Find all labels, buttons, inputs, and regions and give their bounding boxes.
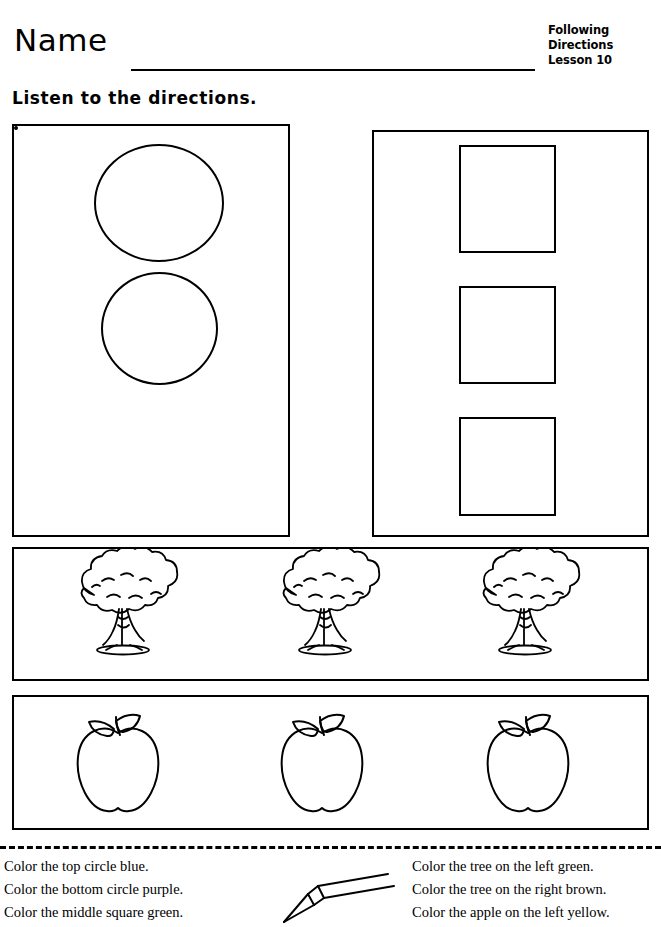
instruction-item: Color the tree on the right brown. [412,878,610,901]
apples-box [12,695,649,830]
instruction-item: Color the middle square green. [4,901,183,924]
square-top[interactable] [459,145,556,253]
apple-right [488,715,569,811]
cut-line [0,846,661,849]
tree-right [484,549,580,655]
circle-middle[interactable] [101,272,218,385]
name-write-line[interactable] [131,69,535,71]
trees-box [12,547,649,681]
worksheet-header: Name Following Directions Lesson 10 [0,0,661,86]
instruction-item: Color the tree on the left green. [412,855,610,878]
name-label: Name [14,22,107,58]
lesson-title-block: Following Directions Lesson 10 [548,23,658,68]
circles-box [12,124,290,537]
square-middle[interactable] [459,286,556,384]
lesson-title-line1: Following [548,23,658,38]
lesson-title-line2: Directions [548,38,658,53]
apple-left [78,715,159,811]
apple-middle [282,715,363,811]
lesson-number: Lesson 10 [548,53,658,68]
instruction-item: Color the top circle blue. [4,855,183,878]
instructions-left: Color the top circle blue. Color the bot… [4,855,183,924]
subtitle-listen-to-directions: Listen to the directions. [12,88,257,108]
tree-left [82,549,178,655]
squares-box [372,130,649,537]
apples-row [14,697,647,828]
instruction-item: Color the bottom circle purple. [4,878,183,901]
circle-top[interactable] [94,144,224,262]
instructions-right: Color the tree on the left green. Color … [412,855,610,924]
square-bottom[interactable] [459,417,556,516]
pencil-icon [278,872,398,927]
tree-middle [284,549,380,655]
instruction-item: Color the apple on the left yellow. [412,901,610,924]
circle-bottom[interactable] [14,126,18,130]
trees-row [14,549,647,679]
